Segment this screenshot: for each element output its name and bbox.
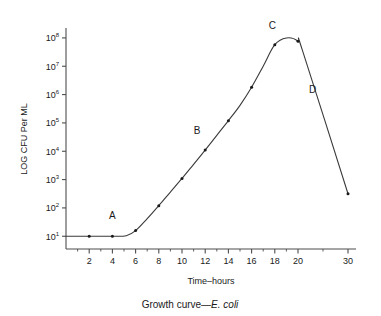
data-point-t12 [204, 149, 207, 152]
data-point-t30 [347, 192, 350, 195]
data-point-t16 [250, 86, 253, 89]
x-tick-label-6: 6 [133, 256, 138, 266]
x-tick-label-16: 16 [247, 256, 257, 266]
data-point-t18 [273, 43, 276, 46]
x-tick-label-12: 12 [200, 256, 210, 266]
x-tick-label-4: 4 [110, 256, 115, 266]
phase-label-lag: A [109, 210, 116, 221]
y-tick-label-1: 101 [46, 231, 60, 242]
y-axis-title: LOG CFU Per ML [19, 103, 29, 175]
x-tick-label-2: 2 [87, 256, 92, 266]
phase-label-log: B [194, 125, 201, 136]
y-tick-label-7: 107 [46, 61, 60, 72]
data-point-t2 [88, 235, 91, 238]
data-point-t14 [227, 119, 230, 122]
growth-curve-figure: 101102103104105106107108 246810121416182… [0, 0, 381, 316]
y-axis-tick-labels: 101102103104105106107108 [46, 32, 60, 241]
x-tick-label-20: 20 [293, 256, 303, 266]
data-point-t20 [297, 40, 300, 43]
data-point-t10 [181, 177, 184, 180]
phase-label-death: D [309, 84, 316, 95]
data-point-t4 [111, 235, 114, 238]
x-tick-label-8: 8 [156, 256, 161, 266]
x-axis-ticks [89, 249, 348, 254]
phase-annotation-labels: ABCD [109, 20, 316, 220]
y-tick-label-3: 103 [46, 174, 60, 185]
y-tick-label-8: 108 [46, 32, 60, 43]
x-tick-label-10: 10 [177, 256, 187, 266]
x-axis-title: Time–hours [187, 276, 235, 286]
chart-canvas: 101102103104105106107108 246810121416182… [0, 0, 381, 316]
y-tick-label-5: 105 [46, 117, 60, 128]
growth-curve-line [66, 38, 348, 236]
data-point-t8 [157, 204, 160, 207]
y-tick-label-2: 102 [46, 202, 60, 213]
figure-caption: Growth curve—E. coli [142, 299, 239, 310]
data-point-markers [88, 40, 350, 238]
data-point-t6 [134, 229, 137, 232]
caption-species-name: E. coli [211, 299, 239, 310]
caption-prefix: Growth curve— [142, 299, 211, 310]
y-tick-label-4: 104 [46, 146, 60, 157]
x-tick-label-18: 18 [270, 256, 280, 266]
x-tick-label-14: 14 [223, 256, 233, 266]
phase-label-stationary: C [269, 20, 276, 31]
x-tick-label-30: 30 [343, 256, 353, 266]
y-axis-ticks [62, 38, 66, 236]
x-axis-tick-labels: 246810121416182030 [87, 256, 353, 266]
y-tick-label-6: 106 [46, 89, 60, 100]
